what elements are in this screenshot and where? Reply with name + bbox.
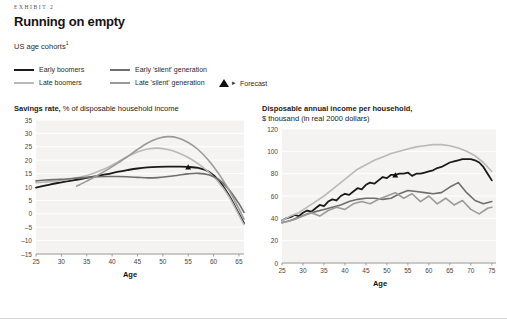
y-tick-label: 80 (271, 170, 279, 177)
y-tick-label: –10 (21, 237, 32, 244)
y-tick-label: –5 (25, 223, 33, 230)
legend-label-late-boomers: Late boomers (39, 79, 82, 86)
y-tick-label: 60 (271, 193, 279, 200)
x-tick-label: 55 (404, 267, 412, 274)
legend-item-late-boomers: Late boomers (14, 79, 82, 86)
subtitle-footnote-marker: 1 (66, 40, 69, 46)
x-tick-label: 60 (210, 258, 218, 265)
y-tick-label: 100 (267, 148, 278, 155)
x-tick-label: 25 (32, 258, 40, 265)
x-tick-label: 45 (134, 258, 142, 265)
legend-swatch-early-silent (110, 69, 130, 71)
legend-label-early-boomers: Early boomers (39, 66, 84, 73)
x-tick-label: 65 (235, 258, 243, 265)
y-tick-label: 35 (25, 116, 33, 123)
x-tick-label: 35 (83, 258, 91, 265)
chart-left-plot: –15–10–505101520253035253035404550556065 (14, 116, 246, 268)
legend-item-early-silent: Early 'silent' generation (110, 66, 207, 73)
chart-left-title: Savings rate, % of disposable household … (14, 104, 246, 114)
legend-item-late-silent: Late 'silent' generation (110, 79, 205, 86)
x-tick-label: 60 (425, 267, 433, 274)
x-tick-label: 40 (108, 258, 116, 265)
x-tick-label: 70 (467, 267, 475, 274)
triangle-marker-icon (219, 79, 229, 87)
x-tick-label: 35 (320, 267, 328, 274)
chart-right-plot: 0204060801001202530354045505560657075 (262, 125, 498, 277)
bottom-divider (0, 318, 507, 319)
x-tick-label: 75 (488, 267, 496, 274)
chart-left-title-sub: % of disposable household income (63, 104, 179, 113)
arrow-right-icon: ▸ (232, 79, 236, 87)
chart-left-xaxis-label: Age (14, 270, 246, 279)
y-tick-label: 30 (25, 130, 33, 137)
y-tick-label: 25 (25, 143, 33, 150)
y-tick-label: –15 (21, 250, 32, 257)
legend-swatch-late-boomers (14, 82, 34, 84)
chart-savings-rate: Savings rate, % of disposable household … (14, 104, 246, 279)
chart-right-svg: 0204060801001202530354045505560657075 (262, 125, 498, 277)
exhibit-page: EXHIBIT 2 Running on empty US age cohort… (0, 0, 507, 327)
y-tick-label: 5 (28, 197, 32, 204)
x-tick-label: 40 (341, 267, 349, 274)
chart-right-title: Disposable annual income per household, … (262, 104, 498, 123)
x-tick-label: 50 (159, 258, 167, 265)
legend-item-early-boomers: Early boomers (14, 66, 84, 73)
chart-left-svg: –15–10–505101520253035253035404550556065 (14, 116, 246, 268)
y-tick-label: 120 (267, 126, 278, 133)
legend-swatch-early-boomers (14, 69, 34, 71)
y-tick-label: 10 (25, 183, 33, 190)
x-tick-label: 45 (362, 267, 370, 274)
y-tick-label: 0 (28, 210, 32, 217)
x-tick-label: 65 (446, 267, 454, 274)
chart-right-title-main: Disposable annual income per household, (262, 104, 412, 113)
subtitle-text: US age cohorts (14, 42, 66, 51)
chart-legend: Early boomers Late boomers Early 'silent… (14, 66, 494, 92)
chart-disposable-income: Disposable annual income per household, … (262, 104, 498, 288)
legend-swatch-late-silent (110, 82, 130, 84)
x-tick-label: 25 (278, 267, 286, 274)
x-tick-label: 30 (58, 258, 66, 265)
legend-label-early-silent: Early 'silent' generation (135, 66, 207, 73)
y-tick-label: 15 (25, 170, 33, 177)
chart-right-xaxis-label: Age (262, 279, 498, 288)
chart-left-title-main: Savings rate, (14, 104, 61, 113)
exhibit-label: EXHIBIT 2 (14, 4, 54, 10)
x-tick-label: 55 (185, 258, 193, 265)
y-tick-label: 0 (274, 260, 278, 267)
page-subtitle: US age cohorts1 (14, 40, 68, 51)
page-title: Running on empty (14, 14, 125, 29)
y-tick-label: 20 (25, 156, 33, 163)
x-tick-label: 30 (299, 267, 307, 274)
legend-label-forecast: Forecast (240, 80, 267, 87)
legend-label-late-silent: Late 'silent' generation (135, 79, 205, 86)
legend-item-forecast: ▸ Forecast (219, 79, 267, 87)
x-tick-label: 50 (383, 267, 391, 274)
y-tick-label: 40 (271, 215, 279, 222)
y-tick-label: 20 (271, 237, 279, 244)
chart-right-title-sub: $ thousand (in real 2000 dollars) (262, 114, 370, 123)
